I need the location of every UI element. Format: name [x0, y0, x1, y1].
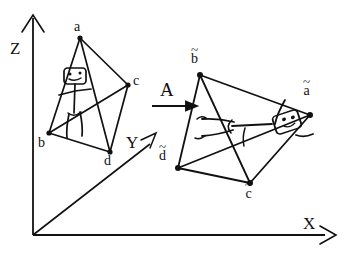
source-stick-figure	[59, 68, 91, 138]
vertex-label-c-tilde: ~ c	[245, 181, 252, 200]
vertex-label-c-tilde-base: c	[245, 187, 252, 200]
diagram-canvas: Z Y X A a b c d ~ a ~ b ~ c ~ d	[0, 0, 346, 258]
diagram-svg	[0, 0, 346, 258]
vertex-label-d: d	[104, 154, 111, 168]
axis-label-y: Y	[126, 134, 138, 151]
vertex-label-b-tilde-base: b	[191, 52, 198, 65]
axis-label-x: X	[303, 215, 315, 232]
vertex-label-b: b	[38, 136, 45, 150]
axis-z	[22, 15, 44, 235]
vertex-label-d-tilde-base: d	[159, 149, 166, 162]
vertex-label-a-tilde: ~ a	[303, 78, 310, 97]
axis-label-z: Z	[10, 40, 20, 57]
vertex-label-d-tilde: ~ d	[159, 143, 166, 162]
target-stick-figure	[195, 100, 313, 146]
axis-x	[33, 226, 336, 244]
vertex-label-b-tilde: ~ b	[191, 46, 198, 65]
map-label-A: A	[160, 80, 174, 99]
vertex-label-a: a	[74, 20, 80, 34]
vertex-label-a-tilde-base: a	[303, 84, 310, 97]
vertex-label-c: c	[133, 74, 139, 88]
